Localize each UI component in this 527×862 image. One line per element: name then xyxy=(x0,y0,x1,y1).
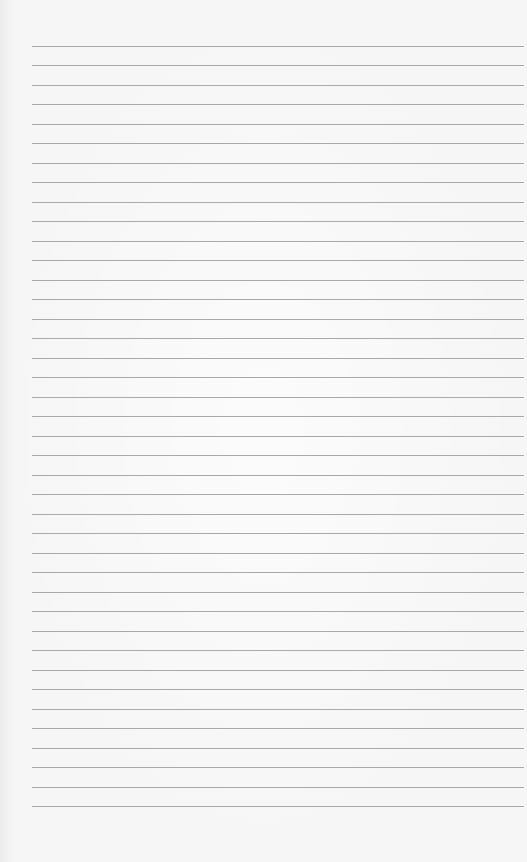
ruled-line xyxy=(32,241,524,242)
ruled-line xyxy=(32,631,524,632)
ruled-line xyxy=(32,260,524,261)
ruled-line xyxy=(32,104,524,105)
ruled-line xyxy=(32,572,524,573)
ruled-line xyxy=(32,455,524,456)
ruled-line xyxy=(32,46,524,47)
ruled-line xyxy=(32,358,524,359)
ruled-line xyxy=(32,670,524,671)
ruled-line xyxy=(32,553,524,554)
ruled-line xyxy=(32,514,524,515)
ruled-line xyxy=(32,416,524,417)
ruled-line xyxy=(32,280,524,281)
ruled-line xyxy=(32,436,524,437)
ruled-line xyxy=(32,85,524,86)
ruled-line xyxy=(32,767,524,768)
ruled-line xyxy=(32,611,524,612)
ruled-line xyxy=(32,202,524,203)
ruled-line xyxy=(32,182,524,183)
ruled-line xyxy=(32,592,524,593)
ruled-line xyxy=(32,494,524,495)
ruled-line xyxy=(32,397,524,398)
lined-paper-sheet xyxy=(0,0,527,862)
ruled-line xyxy=(32,163,524,164)
ruled-line xyxy=(32,748,524,749)
paper-left-shadow xyxy=(0,0,14,862)
ruled-line xyxy=(32,650,524,651)
ruled-line xyxy=(32,124,524,125)
ruled-line xyxy=(32,728,524,729)
ruled-line xyxy=(32,319,524,320)
ruled-line xyxy=(32,787,524,788)
ruled-line xyxy=(32,475,524,476)
ruled-line xyxy=(32,806,524,807)
ruled-line xyxy=(32,221,524,222)
ruled-line xyxy=(32,143,524,144)
ruled-line xyxy=(32,65,524,66)
ruled-line xyxy=(32,338,524,339)
ruled-line xyxy=(32,709,524,710)
ruled-line xyxy=(32,533,524,534)
ruled-line xyxy=(32,299,524,300)
ruled-line xyxy=(32,377,524,378)
ruled-line xyxy=(32,689,524,690)
